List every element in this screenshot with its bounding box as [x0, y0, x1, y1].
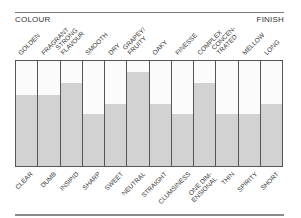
column-fill — [83, 114, 104, 167]
top-label: LONG — [263, 38, 281, 56]
chart-column — [60, 61, 82, 166]
finish-label: FINISH — [257, 15, 284, 24]
bottom-label: SPIRITY — [236, 171, 258, 193]
colour-label: COLOUR — [15, 15, 50, 24]
label-line: SHARP — [82, 171, 102, 191]
label-line: SPIRITY — [236, 171, 258, 193]
profile-chart — [15, 60, 283, 167]
bottom-label: SHORT — [259, 171, 280, 192]
top-label: GRAPEY/FRUITY — [122, 26, 152, 56]
top-label: OAKY — [152, 39, 169, 56]
label-line: THIN — [221, 171, 236, 186]
top-label: FINESSE — [174, 32, 198, 56]
bottom-label: DUMB — [39, 171, 57, 189]
chart-column — [104, 61, 126, 166]
column-fill — [38, 95, 59, 166]
chart-column — [82, 61, 104, 166]
column-fill — [105, 104, 126, 166]
label-line: DRY — [107, 42, 121, 56]
label-line: SWEET — [103, 171, 124, 192]
chart-column — [149, 61, 171, 166]
chart-column — [193, 61, 215, 166]
top-label: SMOOTH — [85, 31, 110, 56]
column-fill — [194, 83, 215, 166]
top-rule — [15, 12, 284, 13]
column-fill — [216, 114, 237, 167]
bottom-rule — [15, 214, 284, 216]
label-line: SHORT — [259, 171, 280, 192]
chart-column — [215, 61, 237, 166]
chart-column — [171, 61, 193, 166]
bottom-label: CLEAR — [15, 171, 35, 191]
chart-column — [260, 61, 282, 166]
bottom-label: INSIPID — [59, 171, 80, 192]
label-line: CLEAR — [15, 171, 35, 191]
bottom-label: THIN — [221, 171, 236, 186]
column-fill — [261, 104, 282, 166]
label-line: FINESSE — [174, 32, 198, 56]
label-line: GOLDEN — [18, 32, 42, 56]
label-line: MELLOW — [241, 31, 266, 56]
column-fill — [16, 95, 37, 166]
chart-column — [16, 61, 37, 166]
bottom-label: SWEET — [103, 171, 124, 192]
label-line: SMOOTH — [85, 31, 110, 56]
label-line: OAKY — [152, 39, 169, 56]
chart-column — [126, 61, 148, 166]
column-fill — [239, 114, 260, 167]
chart-column — [37, 61, 59, 166]
column-fill — [127, 72, 148, 167]
label-line: LONG — [263, 38, 281, 56]
top-label: MELLOW — [241, 31, 266, 56]
chart-column — [238, 61, 260, 166]
label-line: DUMB — [39, 171, 57, 189]
top-label: DRY — [107, 42, 121, 56]
bottom-label: SHARP — [82, 171, 102, 191]
column-fill — [150, 104, 171, 166]
column-fill — [172, 114, 193, 167]
label-line: INSIPID — [59, 171, 80, 192]
top-label: GOLDEN — [18, 32, 42, 56]
column-fill — [61, 83, 82, 166]
